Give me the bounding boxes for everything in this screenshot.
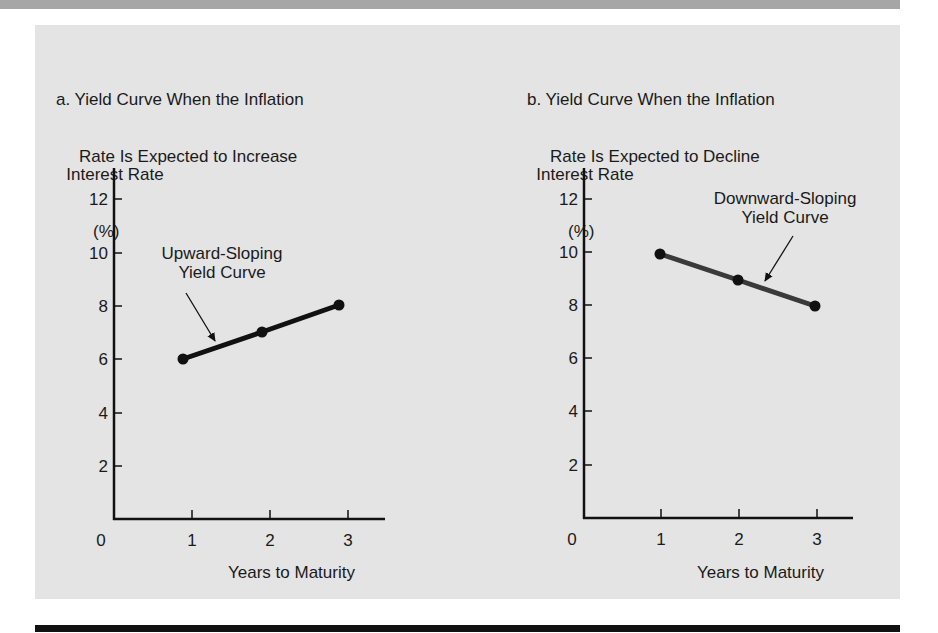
panel-b-annotation: Downward-Sloping Yield Curve bbox=[714, 189, 857, 281]
origin-label: 0 bbox=[96, 531, 105, 550]
svg-text:Upward-Sloping: Upward-Sloping bbox=[162, 244, 283, 263]
ytick-label: 10 bbox=[559, 243, 578, 262]
arrow-icon bbox=[765, 236, 793, 281]
panel-a-annotation: Upward-Sloping Yield Curve bbox=[162, 244, 283, 341]
svg-text:Downward-Sloping: Downward-Sloping bbox=[714, 189, 857, 208]
panel-b-xtick-labels: 0 1 2 3 bbox=[567, 530, 821, 549]
data-point bbox=[655, 249, 666, 260]
data-point bbox=[334, 300, 345, 311]
ytick-label: 8 bbox=[569, 296, 578, 315]
origin-label: 0 bbox=[567, 530, 576, 549]
panel-b-ytick-labels: 12 10 8 6 4 2 bbox=[559, 190, 578, 475]
panel-a-xtick-labels: 0 1 2 3 bbox=[96, 531, 352, 550]
xtick-label: 2 bbox=[734, 530, 743, 549]
svg-text:Yield Curve: Yield Curve bbox=[741, 208, 828, 227]
xtick-label: 3 bbox=[343, 531, 352, 550]
ytick-label: 12 bbox=[559, 190, 578, 209]
arrow-icon bbox=[186, 293, 215, 341]
yield-curve-charts: 12 10 8 6 4 2 0 1 2 3 Upward-Sloping Yie… bbox=[0, 0, 938, 633]
data-point bbox=[810, 301, 821, 312]
panel-b-series bbox=[655, 249, 821, 312]
ytick-label: 2 bbox=[569, 456, 578, 475]
panel-a-series bbox=[178, 300, 345, 365]
ytick-label: 6 bbox=[99, 350, 108, 369]
ytick-label: 12 bbox=[89, 190, 108, 209]
data-point bbox=[257, 327, 268, 338]
ytick-label: 4 bbox=[569, 402, 578, 421]
xtick-label: 1 bbox=[187, 531, 196, 550]
panel-a-axes bbox=[113, 168, 385, 520]
ytick-label: 10 bbox=[89, 244, 108, 263]
xtick-label: 1 bbox=[656, 530, 665, 549]
xtick-label: 3 bbox=[812, 530, 821, 549]
ytick-label: 6 bbox=[569, 349, 578, 368]
ytick-label: 4 bbox=[99, 404, 108, 423]
ytick-label: 2 bbox=[99, 457, 108, 476]
xtick-label: 2 bbox=[265, 531, 274, 550]
svg-text:Yield Curve: Yield Curve bbox=[178, 263, 265, 282]
data-point bbox=[178, 354, 189, 365]
ytick-label: 8 bbox=[99, 297, 108, 316]
panel-a-ytick-labels: 12 10 8 6 4 2 bbox=[89, 190, 108, 476]
data-point bbox=[733, 275, 744, 286]
